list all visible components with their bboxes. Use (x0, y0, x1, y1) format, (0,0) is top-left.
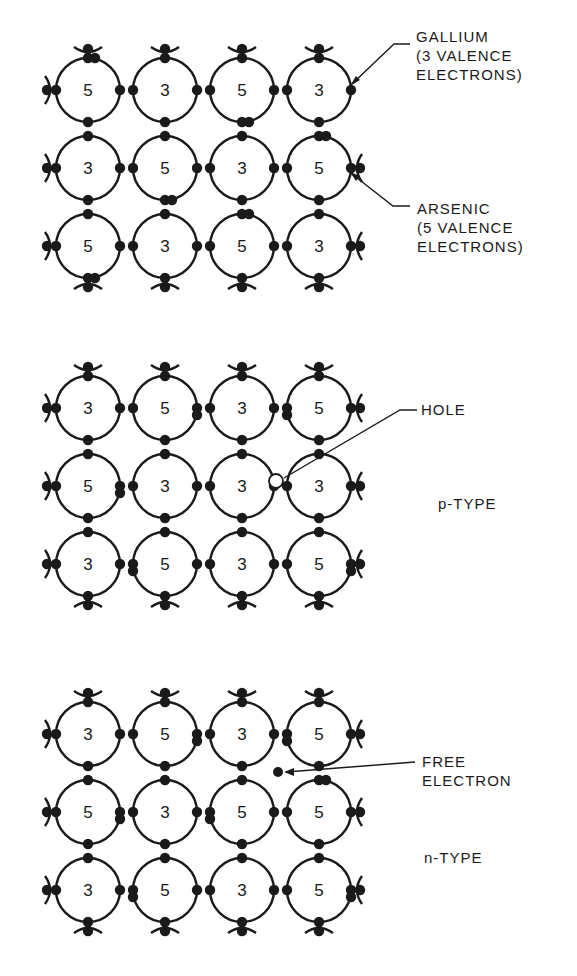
electron-dot (83, 527, 93, 537)
electron-dot (314, 371, 324, 381)
gallium-atom: 3 (282, 449, 365, 523)
valence-number: 5 (160, 881, 169, 900)
electron-dot (282, 410, 292, 420)
electron-dot (83, 195, 93, 205)
electron-dot (83, 591, 93, 601)
electron-dot (237, 917, 247, 927)
electron-dot (83, 839, 93, 849)
electron-dot (237, 853, 247, 863)
electron-dot (115, 163, 125, 173)
electron-dot (160, 273, 170, 283)
electron-dot (83, 917, 93, 927)
electron-dot (128, 85, 138, 95)
electron-dot (192, 807, 202, 817)
valence-number: 5 (314, 881, 323, 900)
arsenic-atom: 5 (128, 688, 202, 771)
electron-dot (128, 481, 138, 491)
electron-dot (115, 814, 125, 824)
electron-dot (160, 761, 170, 771)
electron-dot (83, 513, 93, 523)
electron-dot (346, 241, 356, 251)
electron-dot (83, 209, 93, 219)
electron-dot (192, 410, 202, 420)
electron-dot (237, 273, 247, 283)
arsenic-atom: 5 (128, 853, 202, 936)
electron-dot (160, 449, 170, 459)
valence-number: 3 (160, 81, 169, 100)
electron-dot (160, 131, 170, 141)
arsenic-atom: 5 (282, 131, 365, 205)
valence-number: 3 (237, 555, 246, 574)
electron-dot (237, 131, 247, 141)
electron-dot (192, 241, 202, 251)
valence-number: 3 (83, 555, 92, 574)
electron-dot (83, 761, 93, 771)
hole-leader-line (284, 410, 417, 478)
electron-dot (346, 403, 356, 413)
electron-dot (128, 403, 138, 413)
electron-dot (237, 195, 247, 205)
electron-dot (346, 729, 356, 739)
electron-dot (314, 839, 324, 849)
electron-dot (51, 559, 61, 569)
electron-dot (83, 131, 93, 141)
gallium-atom: 3 (282, 209, 365, 292)
valence-number: 5 (314, 399, 323, 418)
arsenic-atom: 5 (282, 688, 365, 771)
electron-dot (269, 559, 279, 569)
valence-number: 5 (237, 81, 246, 100)
electron-dot (269, 403, 279, 413)
electron-dot (83, 853, 93, 863)
electron-dot (346, 85, 356, 95)
electron-dot (237, 591, 247, 601)
electron-dot (83, 371, 93, 381)
electron-dot (237, 527, 247, 537)
valence-number: 5 (160, 725, 169, 744)
electron-dot (83, 449, 93, 459)
electron-dot (128, 241, 138, 251)
electron-dot (321, 775, 331, 785)
electron-dot (192, 481, 202, 491)
valence-number: 5 (237, 803, 246, 822)
electron-dot (51, 729, 61, 739)
electron-dot (115, 729, 125, 739)
gallium-atom: 3 (128, 209, 202, 292)
valence-number: 5 (160, 399, 169, 418)
valence-number: 5 (83, 237, 92, 256)
electron-dot (83, 117, 93, 127)
electron-dot (282, 241, 292, 251)
gallium-atom: 3 (128, 44, 202, 127)
electron-dot (128, 807, 138, 817)
free-electron-label: FREE ELECTRON (422, 752, 512, 790)
electron-dot (115, 559, 125, 569)
electron-dot (314, 513, 324, 523)
arsenic-atom: 5 (128, 362, 202, 445)
electron-dot (269, 807, 279, 817)
electron-dot (205, 85, 215, 95)
p-type-label: p-TYPE (438, 494, 497, 513)
free-electron-marker (273, 767, 283, 777)
valence-number: 3 (83, 725, 92, 744)
valence-number: 5 (314, 725, 323, 744)
arsenic-atom: 5 (205, 44, 279, 127)
electron-dot (346, 892, 356, 902)
electron-dot (83, 775, 93, 785)
electron-dot (192, 163, 202, 173)
valence-number: 5 (83, 803, 92, 822)
electron-dot (244, 117, 254, 127)
arsenic-atom: 5 (282, 853, 365, 936)
valence-number: 5 (83, 477, 92, 496)
electron-dot (160, 527, 170, 537)
electron-dot (314, 527, 324, 537)
electron-dot (314, 917, 324, 927)
electron-dot (237, 839, 247, 849)
semiconductor-lattice-diagram: 535335355353 353553333535 353553553535 G… (0, 0, 577, 976)
electron-dot (160, 513, 170, 523)
electron-dot (282, 885, 292, 895)
electron-dot (314, 195, 324, 205)
arsenic-atom: 5 (42, 775, 125, 849)
electron-dot (321, 131, 331, 141)
arsenic-atom: 5 (42, 449, 125, 523)
electron-dot (160, 53, 170, 63)
arsenic-atom: 5 (42, 209, 125, 292)
